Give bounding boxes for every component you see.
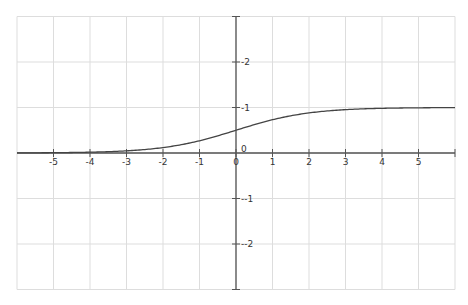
- x-tick-label: 0: [233, 157, 239, 167]
- x-tick-label: 2: [306, 157, 312, 167]
- x-tick-label: -4: [86, 157, 95, 167]
- x-tick-label: -3: [122, 157, 131, 167]
- x-tick-label: -1: [195, 157, 204, 167]
- x-tick-label: 4: [379, 157, 385, 167]
- y-tick-label: -2: [241, 57, 250, 67]
- y-tick-label: --2: [241, 239, 253, 249]
- x-tick-label: 3: [343, 157, 349, 167]
- y-tick-label: --1: [241, 194, 253, 204]
- x-tick-label: -2: [159, 157, 168, 167]
- y-tick-label: 0: [241, 144, 247, 154]
- x-tick-label: -5: [49, 157, 58, 167]
- y-tick-label: -1: [241, 103, 250, 113]
- x-tick-label: 5: [416, 157, 422, 167]
- function-graph: -5-4-3-2-1012345 --2--10-1-2: [0, 0, 468, 305]
- x-tick-label: 1: [270, 157, 276, 167]
